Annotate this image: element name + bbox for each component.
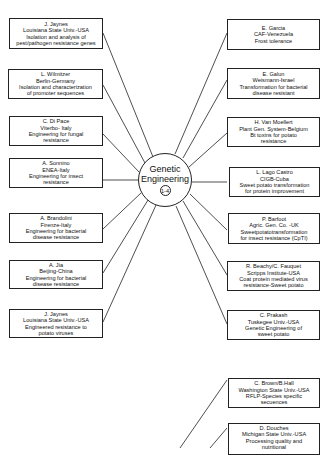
left-box-di-pace: C. Di Pace Viterbo- Italy Engineering fo… [9,116,103,146]
box-line: nutritional [230,444,318,450]
box-line: for insect resistance (CpTI) [230,235,318,241]
box-line: resistance-Sweet potato [229,282,318,288]
right-box-garcia: E. Garcia CAF-Venezuela Frost tolerance [227,19,320,50]
box-line: potato viruses [11,330,101,336]
box-line: resistance [229,138,318,144]
box-line: resistance [11,137,101,143]
genetic-engineering-hub: Genetic Engineering 1-4 [138,153,192,207]
right-box-prakash: C. Prakash Tuskegee Univ.-USA Genetic En… [227,310,320,340]
box-line: of promoter sequences [10,90,101,96]
right-box-beachy-fauquet: R. Beachy/C. Fauquet Scripps Institute-U… [227,261,320,291]
right-box-brown-hall: C. Brown/B.Hall Washington State Univ.-U… [228,378,320,408]
box-line: for protein improvement [231,188,318,194]
box-line: disease resistance [11,234,101,240]
right-box-barfoot: P. Barfoot Agric. Gen. Co. -UK Sweetpota… [228,213,320,244]
box-line: disease resistant [229,90,318,96]
hub-title-line2: Engineering [141,174,189,184]
left-box-jaynes-2: J. Jaynes Louisiana State Univ.-USA Engi… [9,309,103,338]
left-box-wilmitzer: L. Wilmitzer Berlin-Germany Isolation an… [8,69,103,99]
right-box-van-moellert: H. Van Moellert Plant Gen. System-Belgiu… [227,117,320,147]
box-line: Frost tolerance [229,38,318,44]
box-line: pest/pathogen resistance genes [11,40,101,46]
right-box-galun: E. Galun Weismann-Israel Transformation … [227,68,320,99]
box-line: disease resistance [11,281,101,287]
box-line: sweet potato [229,331,318,337]
box-line: secuences [230,399,318,405]
hub-number-badge: 1-4 [160,185,171,196]
left-box-jia: A. Jia Beijing-China Engineering for bac… [9,260,103,289]
left-box-brandolini: A. Brandolini Firenze-Italy Engineering … [9,213,103,243]
right-box-lago-castro: L. Lago Castro CIGB-Cuba Sweet potato tr… [229,167,320,197]
box-line: resistance [11,179,101,185]
left-box-jaynes-1: J. Jaynes Louisiana State Univ.-USA Isol… [9,18,103,49]
hub-title-line1: Genetic [149,164,180,174]
left-box-sonnino: A. Sonnino ENEA-Italy Engineering for in… [9,158,103,188]
right-box-douches: D. Douches Michigan State Univ.-USA Proc… [228,423,320,455]
